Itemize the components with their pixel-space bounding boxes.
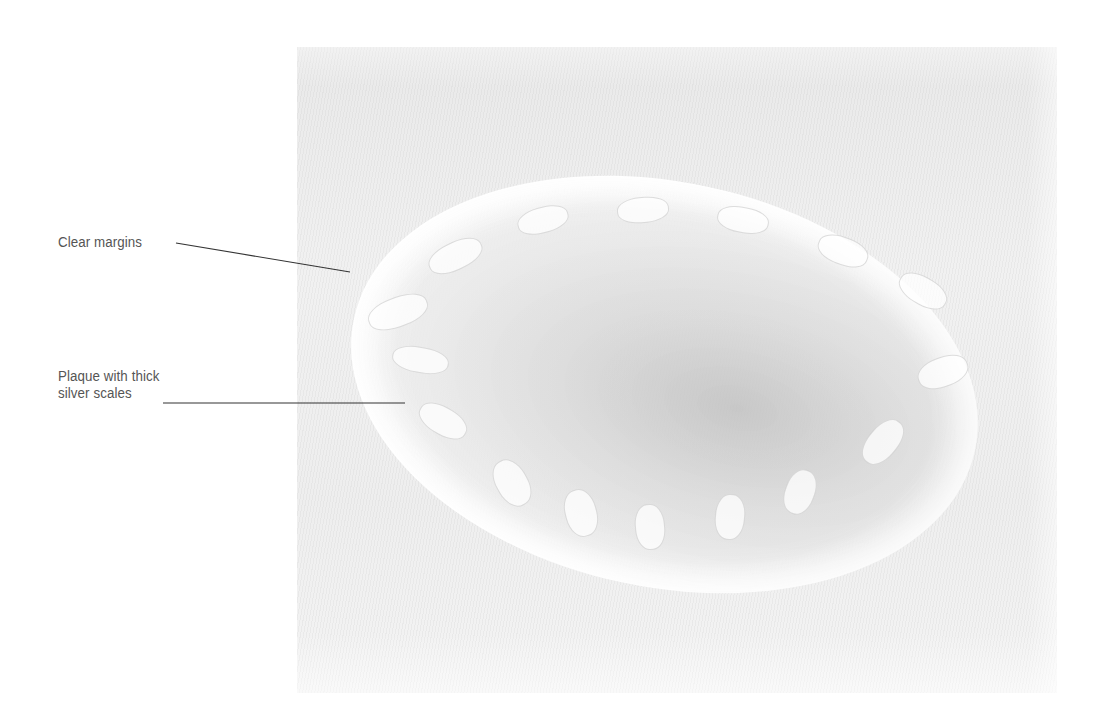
label-line: Plaque with thick [58,367,159,384]
photo-fade-top [297,47,1057,87]
photo-fade-right [1027,47,1057,693]
label-clear-margins: Clear margins [58,233,142,250]
label-line: Clear margins [58,233,142,250]
lesion-photograph [297,47,1057,693]
photo-fade-bottom [297,633,1057,693]
label-line: silver scales [58,384,159,401]
label-plaque-scales: Plaque with thick silver scales [58,367,159,401]
